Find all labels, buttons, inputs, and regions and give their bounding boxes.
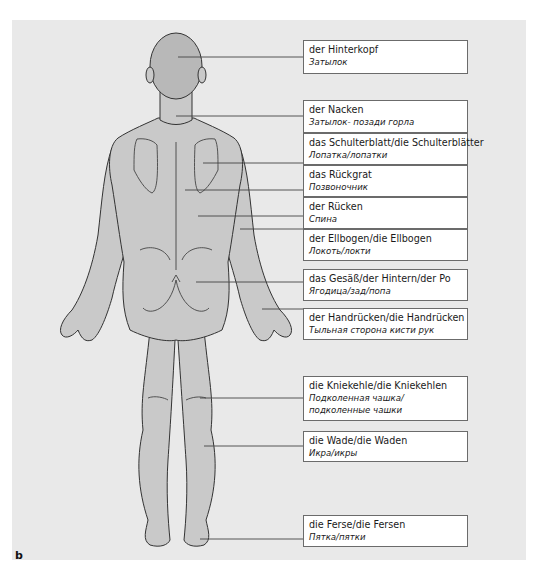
label-russian: Ягодица/зад/попа — [309, 285, 462, 297]
label-german: die Wade/die Waden — [309, 434, 462, 447]
label-russian-line2: подколенные чашки — [309, 404, 462, 416]
label-schulterblatt: das Schulterblatt/die Schulterblätter Ло… — [303, 133, 468, 165]
label-german: der Nacken — [309, 103, 462, 116]
label-russian: Тыльная сторона кисти рук — [309, 324, 462, 336]
label-kniekehle: die Kniekehle/die Kniekehlen Подколенная… — [303, 376, 468, 421]
label-german: der Ellbogen/die Ellbogen — [309, 232, 462, 245]
label-russian: Позвоночник — [309, 181, 462, 193]
label-wade: die Wade/die Waden Икра/икры — [303, 431, 468, 462]
head — [150, 33, 202, 99]
label-ellbogen: der Ellbogen/die Ellbogen Локоть/локти — [303, 229, 468, 261]
label-ruecken: der Rücken Спина — [303, 197, 468, 229]
label-rueckgrat: das Rückgrat Позвоночник — [303, 165, 468, 197]
label-russian: Пятка/пятки — [309, 531, 462, 543]
right-leg — [178, 330, 215, 546]
panel-letter: b — [15, 549, 23, 562]
label-german: die Ferse/die Fersen — [309, 518, 462, 531]
label-german: der Handrücken/die Handrücken — [309, 311, 462, 324]
label-german: der Rücken — [309, 200, 462, 213]
label-russian: Лопатка/лопатки — [309, 149, 462, 161]
label-russian: Спина — [309, 213, 462, 225]
label-russian: Локоть/локти — [309, 245, 462, 257]
label-russian: Икра/икры — [309, 447, 462, 459]
label-german: das Gesäß/der Hintern/der Po — [309, 272, 462, 285]
label-german: der Hinterkopf — [309, 43, 462, 56]
label-nacken: der Nacken Затылок- позади горла — [303, 100, 468, 133]
label-ferse: die Ferse/die Fersen Пятка/пятки — [303, 515, 468, 547]
label-russian: Затылок — [309, 56, 462, 68]
label-german: die Kniekehle/die Kniekehlen — [309, 379, 462, 392]
label-russian: Подколенная чашка/ — [309, 392, 462, 404]
label-russian: Затылок- позади горла — [309, 116, 462, 128]
label-handruecken: der Handrücken/die Handrücken Тыльная ст… — [303, 308, 468, 340]
left-leg — [139, 330, 175, 546]
label-gesaess: das Gesäß/der Hintern/der Po Ягодица/зад… — [303, 269, 468, 301]
label-german: das Schulterblatt/die Schulterblätter — [309, 136, 462, 149]
label-german: das Rückgrat — [309, 168, 462, 181]
label-hinterkopf: der Hinterkopf Затылок — [303, 40, 468, 74]
